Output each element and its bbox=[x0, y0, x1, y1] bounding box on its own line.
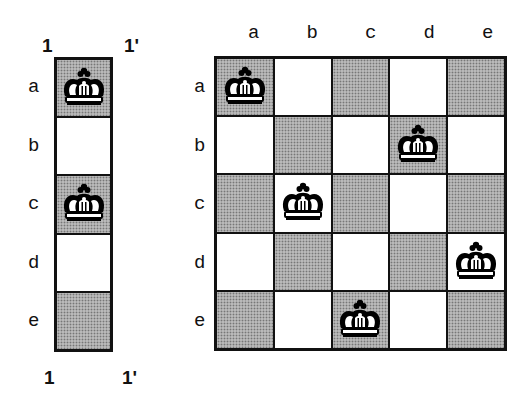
row-label-e: e bbox=[194, 312, 205, 331]
row-label-c: c bbox=[194, 195, 205, 214]
left-column-strip bbox=[54, 57, 113, 352]
square-db bbox=[275, 234, 331, 290]
col-label-d: d bbox=[424, 24, 435, 43]
left-bottom-label-1-prime: 1' bbox=[122, 368, 137, 387]
left-row-label-b: b bbox=[28, 137, 39, 156]
main-board bbox=[214, 56, 507, 351]
king-crown-icon bbox=[61, 182, 107, 226]
square-dc bbox=[333, 234, 389, 290]
square-be bbox=[448, 117, 504, 173]
square-ae bbox=[448, 59, 504, 115]
left-row-label-e: e bbox=[28, 312, 39, 331]
square-dd bbox=[390, 234, 446, 290]
king-crown-icon bbox=[222, 65, 268, 109]
square-ad bbox=[390, 59, 446, 115]
square-ed bbox=[390, 292, 446, 348]
left-top-label-1: 1 bbox=[42, 36, 53, 55]
square-ea bbox=[217, 292, 273, 348]
square-bd bbox=[390, 117, 446, 173]
square-ba bbox=[217, 117, 273, 173]
square-de bbox=[448, 234, 504, 290]
row-label-d: d bbox=[194, 254, 205, 273]
square-da bbox=[217, 234, 273, 290]
strip-cell-a bbox=[57, 60, 110, 116]
king-crown-icon bbox=[280, 181, 326, 225]
left-top-label-1-prime: 1' bbox=[124, 36, 139, 55]
square-ee bbox=[448, 292, 504, 348]
left-bottom-label-1: 1 bbox=[44, 368, 55, 387]
row-label-b: b bbox=[194, 137, 205, 156]
left-row-label-c: c bbox=[28, 195, 39, 214]
col-label-e: e bbox=[482, 24, 493, 43]
square-aa bbox=[217, 59, 273, 115]
king-crown-icon bbox=[337, 298, 383, 342]
square-cb bbox=[275, 175, 331, 231]
col-label-c: c bbox=[365, 24, 376, 43]
strip-cell-c bbox=[57, 176, 110, 232]
square-cd bbox=[390, 175, 446, 231]
square-ec bbox=[333, 292, 389, 348]
row-label-a: a bbox=[194, 78, 205, 97]
square-ab bbox=[275, 59, 331, 115]
strip-cell-d bbox=[57, 235, 110, 291]
col-label-a: a bbox=[248, 24, 259, 43]
strip-cell-e bbox=[57, 293, 110, 349]
square-eb bbox=[275, 292, 331, 348]
strip-cell-b bbox=[57, 118, 110, 174]
col-label-b: b bbox=[307, 24, 318, 43]
king-crown-icon bbox=[453, 240, 499, 284]
left-row-label-a: a bbox=[28, 78, 39, 97]
square-ce bbox=[448, 175, 504, 231]
square-bb bbox=[275, 117, 331, 173]
square-cc bbox=[333, 175, 389, 231]
square-bc bbox=[333, 117, 389, 173]
left-row-label-d: d bbox=[28, 254, 39, 273]
king-crown-icon bbox=[395, 123, 441, 167]
square-ac bbox=[333, 59, 389, 115]
king-crown-icon bbox=[61, 66, 107, 110]
square-ca bbox=[217, 175, 273, 231]
